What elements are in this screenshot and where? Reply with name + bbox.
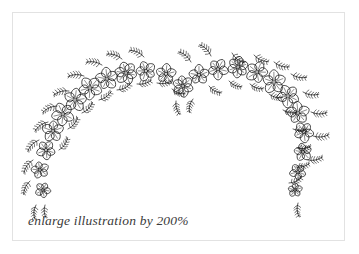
leaf-sprig [283, 109, 297, 116]
flower [247, 62, 268, 83]
flower [189, 64, 209, 83]
leaf-sprig [274, 61, 289, 70]
leaf-sprig [311, 110, 327, 118]
flower [115, 62, 137, 84]
leaf-sprig [21, 181, 30, 195]
leaf-sprig-layer [21, 42, 329, 219]
leaf-sprig [53, 88, 69, 97]
leaf-sprig [59, 137, 70, 150]
leaf-sprig [303, 90, 319, 98]
leaf-sprig [294, 203, 301, 217]
flower [136, 62, 154, 81]
flower [36, 183, 51, 197]
leaf-sprig [269, 93, 283, 101]
leaf-sprig [291, 73, 307, 81]
leaf-sprig [129, 47, 144, 57]
leaf-sprig [313, 133, 329, 141]
leaf-sprig [107, 51, 122, 60]
leaf-sprig [229, 81, 242, 89]
leaf-sprig [178, 49, 191, 62]
flower [31, 162, 48, 178]
leaf-sprig [198, 42, 211, 56]
flower [65, 88, 86, 110]
leaf-sprig [68, 71, 84, 79]
flower [52, 103, 74, 125]
illustration-page: enlarge illustration by 200% [0, 0, 359, 254]
flower [294, 143, 311, 160]
leaf-sprig [209, 86, 222, 96]
leaf-sprig [41, 104, 57, 115]
leaf-sprig [86, 58, 102, 66]
flower [288, 183, 302, 196]
leaf-sprig [186, 99, 194, 113]
flower [263, 70, 285, 93]
flower [37, 142, 55, 160]
leaf-sprig [68, 116, 80, 129]
leaf-sprig [22, 160, 33, 174]
flower [209, 60, 229, 80]
caption-text: enlarge illustration by 200% [28, 213, 189, 229]
leaf-sprig [250, 83, 263, 91]
leaf-sprig [173, 101, 181, 115]
flower [277, 85, 298, 107]
leaf-sprig [33, 121, 48, 133]
leaf-sprig [137, 78, 152, 86]
flower [286, 101, 309, 122]
